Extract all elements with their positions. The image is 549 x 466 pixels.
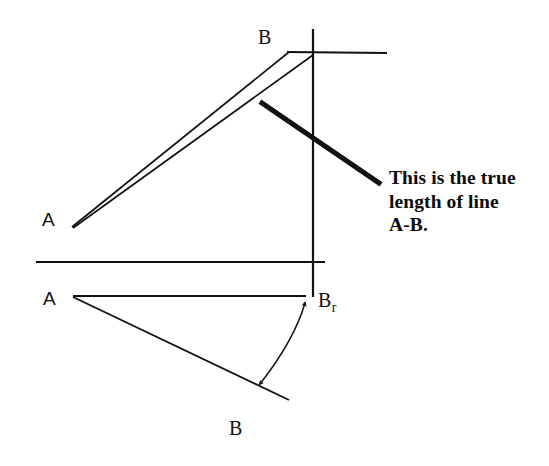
point-label-a-front-view: A: [42, 210, 55, 229]
point-label-a-top-view: A: [43, 289, 56, 308]
br-subscript: r: [332, 300, 337, 315]
annotation-line-3: A-B.: [389, 213, 545, 237]
point-label-br-revolved: Br: [318, 290, 336, 310]
point-label-b-front-view: B: [258, 27, 271, 47]
figure-root: B A A B Br This is the true length of li…: [0, 0, 549, 466]
upper-horizontal-reference-line: [287, 52, 387, 53]
br-main-letter: B: [318, 289, 331, 311]
true-length-annotation: This is the true length of line A-B.: [389, 166, 545, 237]
true-length-line-lower: [73, 55, 313, 228]
annotation-line-2: length of line: [389, 190, 545, 214]
leader-line-true-length: [262, 103, 379, 183]
true-length-line-upper: [72, 52, 289, 227]
annotation-line-1: This is the true: [389, 166, 545, 190]
point-label-b-top-view: B: [229, 418, 242, 438]
top-view-line-a-b: [73, 297, 289, 400]
revolution-arc: [260, 303, 305, 384]
